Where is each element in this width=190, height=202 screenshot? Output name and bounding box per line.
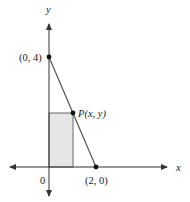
y-intercept-label: (0, 4) xyxy=(19,52,42,64)
diagram-canvas: y x 0 (0, 4) (2, 0) P(x, y) xyxy=(0,0,190,202)
inscribed-rectangle xyxy=(49,113,73,167)
origin-label: 0 xyxy=(40,175,45,186)
point-x-intercept xyxy=(94,165,99,170)
y-axis-label: y xyxy=(45,4,51,15)
point-p xyxy=(71,111,76,116)
point-y-intercept xyxy=(47,55,52,60)
x-intercept-label: (2, 0) xyxy=(85,175,108,187)
point-p-label: P(x, y) xyxy=(77,108,106,120)
x-axis-label: x xyxy=(175,162,181,173)
